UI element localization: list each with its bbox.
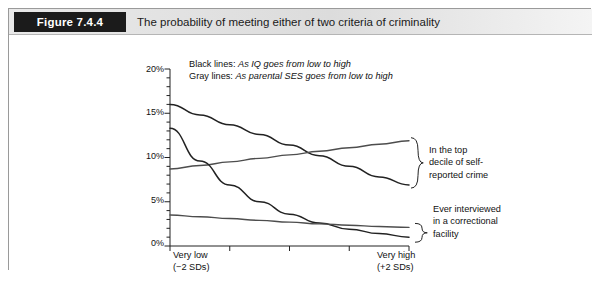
figure-number-label: Figure 7.4.4 [14, 12, 126, 32]
figure-number-tag: Figure 7.4.4 [14, 12, 126, 32]
chart-curves [170, 104, 409, 237]
brace-correctional [415, 223, 427, 242]
chart-panel: Black lines: As IQ goes from low to high… [9, 35, 592, 270]
chart-braces [411, 138, 427, 243]
series-line-3 [170, 215, 409, 227]
chart-axes [165, 69, 410, 251]
figure-title: The probability of meeting either of two… [137, 9, 440, 35]
figure-header: Figure 7.4.4 The probability of meeting … [9, 9, 592, 35]
figure-container: Figure 7.4.4 The probability of meeting … [8, 8, 591, 270]
chart-svg [9, 35, 592, 270]
brace-top-decile [411, 138, 423, 188]
